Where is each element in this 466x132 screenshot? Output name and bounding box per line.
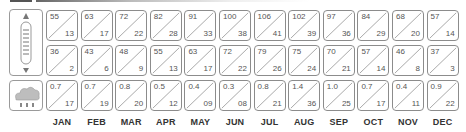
cell-bottom-value: 3 <box>450 65 454 73</box>
temp-low-row-cell: 373 <box>427 45 459 76</box>
cell-bottom-value: 12 <box>169 100 178 108</box>
month-label: MAR <box>115 117 147 127</box>
temp-low-row-cell: 489 <box>115 45 147 76</box>
cell-top-value: 82 <box>154 13 163 21</box>
cell-bottom-value: 29 <box>376 30 385 38</box>
cell-top-value: 106 <box>258 13 271 21</box>
cell-top-value: 97 <box>327 13 336 21</box>
cell-bottom-value: 17 <box>376 100 385 108</box>
cell-bottom-value: 22 <box>446 100 455 108</box>
month-label: DEC <box>427 117 459 127</box>
temp-low-row-cell: 5513 <box>150 45 182 76</box>
temp-high-row-cell: 7222 <box>115 10 147 41</box>
cell-bottom-value: 19 <box>100 100 109 108</box>
precip-row-cell: 0.719 <box>81 80 113 111</box>
temp-high-row-cell: 9736 <box>323 10 355 41</box>
cell-bottom-value: 13 <box>169 65 178 73</box>
month-label: AUG <box>288 117 320 127</box>
precip-row-cell: 0.717 <box>46 80 78 111</box>
precip-row-cell: 0.922 <box>427 80 459 111</box>
temp-high-row-cell: 5513 <box>46 10 78 41</box>
cell-top-value: 79 <box>258 48 267 56</box>
month-label: JUN <box>219 117 251 127</box>
temp-high-row-cell: 10038 <box>219 10 251 41</box>
cell-top-value: 57 <box>361 48 370 56</box>
cell-bottom-value: 36 <box>307 100 316 108</box>
cell-bottom-value: 39 <box>307 30 316 38</box>
cell-bottom-value: 14 <box>446 30 455 38</box>
cell-top-value: 0.3 <box>223 83 234 91</box>
month-label: NOV <box>392 117 424 127</box>
cell-top-value: 0.8 <box>258 83 269 91</box>
cell-top-value: 0.7 <box>361 83 372 91</box>
cell-bottom-value: 20 <box>134 100 143 108</box>
temp-high-row-cell: 9133 <box>184 10 216 41</box>
cell-bottom-value: 25 <box>342 100 351 108</box>
cell-top-value: 84 <box>361 13 370 21</box>
cell-bottom-value: 2 <box>70 65 74 73</box>
temp-low-row-cell: 436 <box>81 45 113 76</box>
precip-row-cell: 1.025 <box>323 80 355 111</box>
cell-bottom-value: 33 <box>203 30 212 38</box>
cell-top-value: 63 <box>85 13 94 21</box>
cell-top-value: 0.8 <box>119 83 130 91</box>
cell-bottom-value: 11 <box>412 100 420 108</box>
cell-top-value: 0.4 <box>188 83 199 91</box>
cell-bottom-value: 14 <box>376 65 385 73</box>
cell-top-value: 0.7 <box>50 83 61 91</box>
temp-low-row-cell: 468 <box>392 45 424 76</box>
precip-row-cell: 0.512 <box>150 80 182 111</box>
temp-high-row-cell: 6820 <box>392 10 424 41</box>
cell-top-value: 70 <box>327 48 336 56</box>
cell-top-value: 48 <box>119 48 128 56</box>
cell-top-value: 1.0 <box>327 83 338 91</box>
cell-top-value: 72 <box>223 48 232 56</box>
temp-low-row-cell: 7926 <box>254 45 286 76</box>
cell-top-value: 63 <box>188 48 197 56</box>
temperature-legend <box>9 9 43 76</box>
cell-top-value: 0.7 <box>85 83 96 91</box>
cell-top-value: 55 <box>154 48 163 56</box>
cell-bottom-value: 26 <box>273 65 282 73</box>
temp-low-row-cell: 7222 <box>219 45 251 76</box>
temp-low-row-cell: 6317 <box>184 45 216 76</box>
month-label: JUL <box>254 117 286 127</box>
temp-high-row-cell: 8228 <box>150 10 182 41</box>
month-label: FEB <box>81 117 113 127</box>
month-label: JAN <box>46 117 78 127</box>
cell-top-value: 46 <box>396 48 405 56</box>
cell-bottom-value: 28 <box>169 30 178 38</box>
cell-bottom-value: 41 <box>273 30 282 38</box>
cell-top-value: 1.4 <box>292 83 303 91</box>
precip-row-cell: 0.409 <box>184 80 216 111</box>
precip-row-cell: 0.411 <box>392 80 424 111</box>
cell-top-value: 55 <box>50 13 59 21</box>
cell-top-value: 0.9 <box>431 83 442 91</box>
temp-high-row-cell: 6317 <box>81 10 113 41</box>
top-divider <box>10 0 450 2</box>
cell-bottom-value: 6 <box>104 65 108 73</box>
cell-bottom-value: 24 <box>307 65 316 73</box>
precip-row-cell: 0.308 <box>219 80 251 111</box>
cell-top-value: 91 <box>188 13 197 21</box>
temp-high-row-cell: 8429 <box>357 10 389 41</box>
cell-bottom-value: 20 <box>411 30 420 38</box>
precip-row-cell: 0.717 <box>357 80 389 111</box>
cell-bottom-value: 22 <box>238 65 247 73</box>
cell-bottom-value: 21 <box>273 100 282 108</box>
cell-top-value: 100 <box>223 13 236 21</box>
month-label: SEP <box>323 117 355 127</box>
cell-bottom-value: 09 <box>203 100 212 108</box>
cell-top-value: 68 <box>396 13 405 21</box>
temp-high-row-cell: 10239 <box>288 10 320 41</box>
cell-top-value: 57 <box>431 13 440 21</box>
cell-top-value: 102 <box>292 13 305 21</box>
cell-bottom-value: 13 <box>65 30 74 38</box>
cell-bottom-value: 08 <box>238 100 247 108</box>
temp-low-row-cell: 5714 <box>357 45 389 76</box>
rain-cloud-icon <box>10 81 44 112</box>
precip-row-cell: 0.820 <box>115 80 147 111</box>
month-label: APR <box>150 117 182 127</box>
temp-low-row-cell: 7021 <box>323 45 355 76</box>
temp-low-row-cell: 7524 <box>288 45 320 76</box>
